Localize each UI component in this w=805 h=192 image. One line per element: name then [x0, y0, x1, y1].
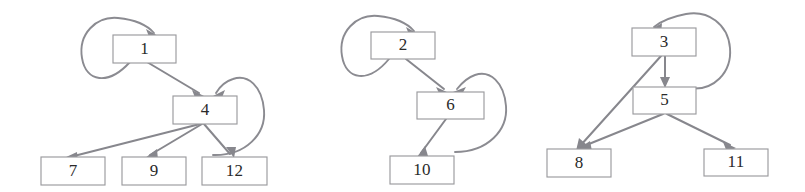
node-label-n4: 4: [201, 100, 210, 119]
node-n10[interactable]: 10: [390, 156, 454, 184]
node-n2[interactable]: 2: [371, 32, 435, 59]
node-label-n10: 10: [413, 160, 430, 179]
node-label-n6: 6: [446, 95, 455, 114]
node-n5[interactable]: 5: [633, 87, 696, 114]
diagram-canvas: 1 4 7 9 12: [0, 0, 805, 192]
node-label-n1: 1: [140, 39, 149, 58]
node-n3[interactable]: 3: [632, 28, 696, 56]
arrow-n6-n10: [417, 146, 428, 157]
node-label-n8: 8: [575, 153, 584, 172]
node-label-n5: 5: [660, 90, 669, 109]
edge-n1-n4: [147, 62, 199, 93]
graph-3: 3 5 8 11: [547, 13, 768, 177]
node-label-n12: 12: [226, 161, 243, 180]
node-n9[interactable]: 9: [122, 157, 186, 185]
graph-2: 2 6 10: [341, 16, 506, 184]
node-label-n7: 7: [69, 161, 78, 180]
graph-1: 1 4 7 9 12: [41, 18, 267, 185]
edge-n4-n7: [70, 124, 200, 157]
node-label-n11: 11: [728, 152, 745, 171]
node-n6[interactable]: 6: [417, 92, 484, 119]
node-label-n9: 9: [150, 161, 159, 180]
node-n1[interactable]: 1: [113, 35, 176, 63]
node-label-n3: 3: [660, 32, 669, 51]
node-n12[interactable]: 12: [202, 157, 267, 185]
edge-n5-n11: [667, 114, 730, 145]
edge-n5-n8: [584, 114, 663, 146]
node-n7[interactable]: 7: [41, 157, 105, 185]
edge-n4-n9: [150, 124, 202, 155]
edge-n2-n6: [406, 59, 444, 89]
node-n11[interactable]: 11: [704, 149, 768, 176]
arrow-n3-n5: [660, 77, 670, 88]
graph-svg: 1 4 7 9 12: [0, 0, 805, 192]
node-n4[interactable]: 4: [173, 96, 237, 124]
edge-n4-n12: [204, 124, 230, 154]
node-n8[interactable]: 8: [547, 149, 611, 177]
node-label-n2: 2: [399, 35, 408, 54]
